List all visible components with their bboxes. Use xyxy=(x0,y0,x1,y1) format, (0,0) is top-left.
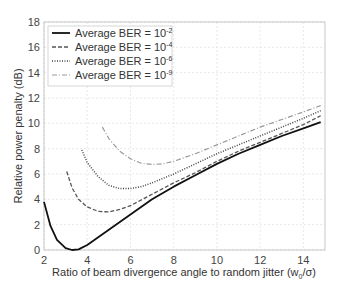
y-tick-label: 14 xyxy=(28,67,40,79)
series-line-1 xyxy=(44,122,321,250)
y-tick-label: 12 xyxy=(28,92,40,104)
legend-item-2: Average BER = 10-4 xyxy=(75,41,173,53)
x-tick-label: 12 xyxy=(254,254,266,266)
x-tick-label: 8 xyxy=(171,254,177,266)
y-tick-label: 4 xyxy=(34,193,40,205)
y-tick-label: 2 xyxy=(34,219,40,231)
x-tick-label: 6 xyxy=(127,254,133,266)
legend-item-1: Average BER = 10-2 xyxy=(75,27,173,39)
legend: Average BER = 10-2 Average BER = 10-4 Av… xyxy=(48,26,173,86)
y-axis-label: Relative power penalty (dB) xyxy=(12,68,24,203)
y-tick-label: 16 xyxy=(28,41,40,53)
y-tick-label: 8 xyxy=(34,143,40,155)
x-tick-label: 2 xyxy=(41,254,47,266)
y-tick-label: 0 xyxy=(34,244,40,256)
legend-item-4: Average BER = 10-9 xyxy=(75,69,173,81)
x-tick-label: 10 xyxy=(211,254,223,266)
chart: 2468101214024681012141618 Average BER = … xyxy=(0,0,345,292)
x-tick-label: 14 xyxy=(297,254,309,266)
x-axis-label: Ratio of beam divergence angle to random… xyxy=(52,266,316,280)
y-tick-label: 18 xyxy=(28,16,40,28)
series-lines xyxy=(44,106,321,250)
legend-item-3: Average BER = 10-6 xyxy=(75,55,173,67)
y-tick-label: 6 xyxy=(34,168,40,180)
x-tick-label: 4 xyxy=(84,254,90,266)
y-tick-label: 10 xyxy=(28,117,40,129)
